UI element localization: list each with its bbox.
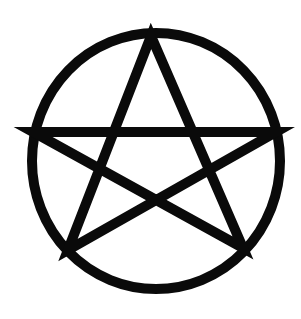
pentagram-figure <box>0 0 301 319</box>
pentagram-icon <box>0 0 301 319</box>
